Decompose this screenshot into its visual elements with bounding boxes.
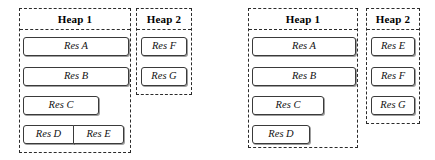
res-block-left-heap2-res-f[interactable]: Res F xyxy=(141,37,187,56)
res-row: Res F xyxy=(141,37,187,56)
res-row: Res E xyxy=(371,37,415,56)
left-heap-2-panel: Heap 2 Res F Res G xyxy=(136,8,192,95)
res-block-left-heap2-res-g[interactable]: Res G xyxy=(141,67,187,86)
res-row: Res G xyxy=(141,67,187,86)
res-block-left-heap1-res-a[interactable]: Res A xyxy=(23,37,129,56)
res-block-right-heap2-res-f[interactable]: Res F xyxy=(371,67,415,86)
left-heap-1-panel: Heap 1 Res A Res B Res C Res D Res E xyxy=(19,8,131,153)
heap-diagram-figure: Heap 1 Res A Res B Res C Res D Res E Hea… xyxy=(0,0,435,160)
res-block-right-heap1-res-d[interactable]: Res D xyxy=(252,125,310,144)
left-heap-1-body: Res A Res B Res C Res D Res E xyxy=(20,30,130,152)
right-heap-2-panel: Heap 2 Res E Res F Res G xyxy=(366,8,420,124)
res-block-left-heap1-res-d[interactable]: Res D xyxy=(23,125,74,144)
right-heap-1-title: Heap 1 xyxy=(249,9,357,30)
res-row: Res B xyxy=(252,67,356,86)
res-block-right-heap1-res-a[interactable]: Res A xyxy=(252,37,356,56)
res-block-right-heap1-res-c[interactable]: Res C xyxy=(252,96,324,115)
left-heap-2-body: Res F Res G xyxy=(137,30,191,94)
res-row: Res C xyxy=(23,96,99,115)
res-row: Res B xyxy=(23,67,129,86)
right-heap-1-body: Res A Res B Res C Res D xyxy=(249,30,357,147)
right-heap-1-panel: Heap 1 Res A Res B Res C Res D xyxy=(248,8,358,148)
res-block-right-heap2-res-g[interactable]: Res G xyxy=(371,96,415,115)
right-heap-2-title: Heap 2 xyxy=(367,9,419,30)
right-heap-2-body: Res E Res F Res G xyxy=(367,30,419,123)
res-block-right-heap2-res-e[interactable]: Res E xyxy=(371,37,415,56)
res-row: Res G xyxy=(371,96,415,115)
res-row: Res D Res E xyxy=(23,125,124,144)
res-row: Res A xyxy=(252,37,356,56)
res-block-left-heap1-res-b[interactable]: Res B xyxy=(23,67,129,86)
res-block-right-heap1-res-b[interactable]: Res B xyxy=(252,67,356,86)
res-row: Res C xyxy=(252,96,324,115)
res-block-left-heap1-res-c[interactable]: Res C xyxy=(23,96,99,115)
res-row: Res F xyxy=(371,67,415,86)
res-block-left-heap1-res-e[interactable]: Res E xyxy=(73,125,124,144)
left-heap-2-title: Heap 2 xyxy=(137,9,191,30)
res-row: Res D xyxy=(252,125,310,144)
left-heap-1-title: Heap 1 xyxy=(20,9,130,30)
res-row: Res A xyxy=(23,37,129,56)
